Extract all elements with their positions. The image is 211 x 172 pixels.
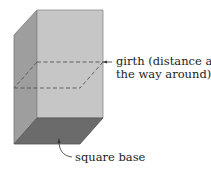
base-label: square base <box>75 151 145 164</box>
girth-label-line2: the way around) <box>116 68 211 81</box>
box-drawing <box>0 0 211 172</box>
front-face <box>37 10 103 118</box>
girth-arrow-icon <box>103 61 112 64</box>
box-diagram: girth (distance all the way around) squa… <box>0 0 211 172</box>
